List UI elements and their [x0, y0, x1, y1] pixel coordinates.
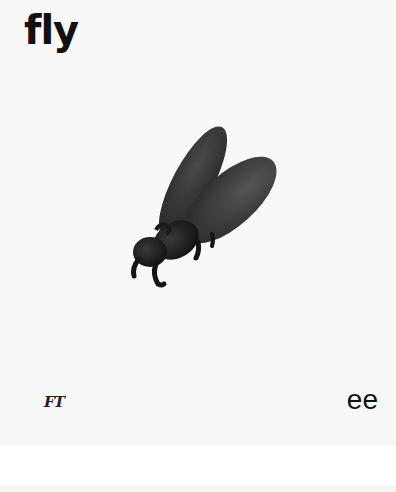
fly-icon: [118, 112, 294, 302]
target-letters: ee: [347, 382, 378, 418]
phonics-glyph: FT: [44, 393, 64, 411]
word-title: fly: [24, 6, 78, 54]
bottom-strip: [0, 486, 396, 492]
fly-illustration: [118, 112, 294, 302]
flashcard: fly: [0, 0, 396, 446]
